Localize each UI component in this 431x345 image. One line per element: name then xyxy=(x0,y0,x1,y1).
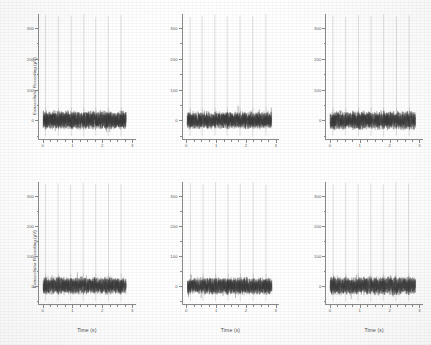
x-axis-title: Time (s) xyxy=(182,327,280,333)
x-tick-minor xyxy=(375,304,376,307)
x-tick-label: 1 xyxy=(71,143,73,148)
x-tick-minor xyxy=(352,139,353,142)
signal-trace xyxy=(39,14,136,139)
x-tick-minor xyxy=(268,139,269,142)
y-tick-label: 0 xyxy=(175,283,177,288)
x-tick-minor xyxy=(238,139,239,142)
panel-top-left: Extracellular Recording (µV)010020030001… xyxy=(0,0,144,172)
x-tick-minor xyxy=(80,304,81,307)
y-tick-label: 300 xyxy=(314,25,321,30)
y-tick-label: 100 xyxy=(314,87,321,92)
signal-trace xyxy=(39,182,136,304)
x-tick-label: 2 xyxy=(388,143,390,148)
x-tick-label: 1 xyxy=(215,143,217,148)
x-tick-minor xyxy=(367,139,368,142)
signal-trace xyxy=(183,182,280,304)
x-tick-minor xyxy=(117,139,118,142)
x-tick-minor xyxy=(65,139,66,142)
x-tick-label: 3 xyxy=(418,308,420,313)
x-tick-minor xyxy=(117,304,118,307)
x-tick-minor xyxy=(201,304,202,307)
y-tick-label: 300 xyxy=(27,193,34,198)
x-tick-label: 3 xyxy=(418,143,420,148)
x-tick-label: 2 xyxy=(388,308,390,313)
plot-area: 01002003000123 xyxy=(182,182,280,305)
x-tick-label: 2 xyxy=(245,308,247,313)
y-tick-label: 0 xyxy=(32,118,34,123)
y-tick-label: 100 xyxy=(170,87,177,92)
x-tick-minor xyxy=(224,304,225,307)
x-tick-label: 1 xyxy=(215,308,217,313)
y-axis-title: Extracellular Recording (µV) xyxy=(32,57,37,115)
x-tick-minor xyxy=(345,139,346,142)
x-tick-minor xyxy=(201,139,202,142)
signal-trace xyxy=(326,14,423,139)
y-tick-label: 0 xyxy=(319,283,321,288)
y-tick-label: 300 xyxy=(27,25,34,30)
x-tick-minor xyxy=(382,139,383,142)
x-tick-minor xyxy=(57,304,58,307)
x-tick-label: 1 xyxy=(359,143,361,148)
x-tick-minor xyxy=(352,304,353,307)
x-tick-minor xyxy=(405,304,406,307)
x-tick-minor xyxy=(405,139,406,142)
x-tick-minor xyxy=(110,139,111,142)
x-tick-minor xyxy=(412,139,413,142)
y-tick-label: 300 xyxy=(170,25,177,30)
x-tick-minor xyxy=(337,304,338,307)
x-tick-minor xyxy=(125,304,126,307)
y-tick-label: 0 xyxy=(175,118,177,123)
x-tick-minor xyxy=(224,139,225,142)
plot-area: 01002003000123 xyxy=(325,182,423,305)
x-tick-label: 2 xyxy=(101,308,103,313)
x-tick-label: 3 xyxy=(275,143,277,148)
x-tick-label: 3 xyxy=(131,143,133,148)
y-tick-label: 100 xyxy=(27,253,34,258)
y-tick-label: 0 xyxy=(32,283,34,288)
x-tick-label: 2 xyxy=(101,143,103,148)
x-tick-minor xyxy=(268,304,269,307)
x-tick-minor xyxy=(125,139,126,142)
y-tick-label: 100 xyxy=(27,87,34,92)
x-tick-label: 0 xyxy=(329,308,331,313)
x-tick-minor xyxy=(87,304,88,307)
x-tick-label: 2 xyxy=(245,143,247,148)
plot-area: 01002003000123 xyxy=(325,14,423,140)
x-tick-label: 3 xyxy=(275,308,277,313)
y-tick-label: 200 xyxy=(314,56,321,61)
y-tick-label: 200 xyxy=(170,223,177,228)
signal-trace xyxy=(326,182,423,304)
plot-area: 01002003000123 xyxy=(182,14,280,140)
signal-trace xyxy=(183,14,280,139)
plot-area: 01002003000123 xyxy=(38,14,136,140)
x-tick-minor xyxy=(261,139,262,142)
y-tick-label: 300 xyxy=(170,193,177,198)
x-tick-label: 0 xyxy=(185,308,187,313)
x-axis-title: Time (s) xyxy=(38,327,136,333)
x-tick-minor xyxy=(87,139,88,142)
x-tick-minor xyxy=(397,139,398,142)
x-tick-minor xyxy=(367,304,368,307)
x-tick-minor xyxy=(253,139,254,142)
x-tick-label: 0 xyxy=(185,143,187,148)
figure-grid: Extracellular Recording (µV)010020030001… xyxy=(0,0,431,345)
x-tick-minor xyxy=(231,139,232,142)
x-tick-minor xyxy=(253,304,254,307)
x-tick-minor xyxy=(50,304,51,307)
x-tick-label: 0 xyxy=(41,143,43,148)
x-tick-minor xyxy=(238,304,239,307)
panel-bottom-left: Extracellular Recording (µV)Time (s)0100… xyxy=(0,172,144,345)
x-tick-label: 1 xyxy=(359,308,361,313)
x-tick-minor xyxy=(194,304,195,307)
x-tick-minor xyxy=(110,304,111,307)
y-tick-label: 200 xyxy=(314,223,321,228)
panel-top-right: 01002003000123 xyxy=(287,0,431,172)
x-tick-minor xyxy=(337,139,338,142)
x-tick-minor xyxy=(95,304,96,307)
x-tick-minor xyxy=(412,304,413,307)
panel-bottom-middle: Time (s)01002003000123 xyxy=(144,172,288,345)
x-tick-label: 0 xyxy=(329,143,331,148)
x-tick-minor xyxy=(209,304,210,307)
x-tick-minor xyxy=(231,304,232,307)
y-tick-label: 200 xyxy=(27,223,34,228)
